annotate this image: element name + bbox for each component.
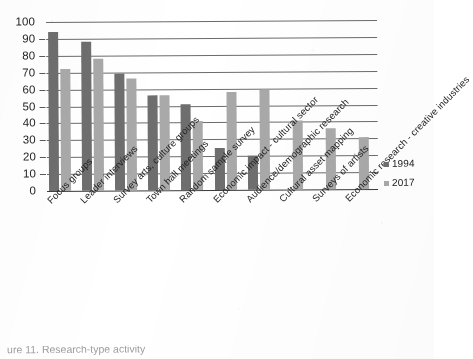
legend-label-1994: 1994 [392,159,415,169]
bar-chart-figure: 1009080706050403020100 Focus groupsLeade… [0,0,435,359]
chart-legend: 1994 2017 [384,159,415,197]
x-axis-label: Leader interviews [79,144,140,206]
x-axis-labels-group: Focus groupsLeader interviewsSurvey arts… [0,0,435,359]
legend-label-2017: 2017 [392,178,415,188]
legend-swatch-icon-1994 [384,161,389,166]
legend-swatch-icon-2017 [384,180,389,185]
legend-item-1994[interactable]: 1994 [384,159,415,169]
legend-item-2017[interactable]: 2017 [384,178,415,188]
